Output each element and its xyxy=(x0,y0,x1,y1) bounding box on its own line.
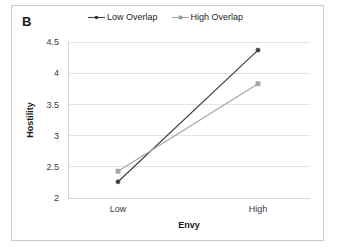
data-point xyxy=(116,169,120,173)
xtick-labels: LowHigh xyxy=(110,204,268,214)
ytick-label: 3 xyxy=(54,131,59,141)
data-series xyxy=(116,48,260,184)
ytick-label: 3.5 xyxy=(46,100,59,110)
series-high-overlap xyxy=(116,82,260,174)
data-point xyxy=(256,48,260,52)
line-chart: 22.533.544.5 LowHigh Hostility Envy xyxy=(0,0,338,252)
ytick-label: 2 xyxy=(54,193,59,203)
axis-lines xyxy=(68,42,310,198)
ytick-label: 2.5 xyxy=(46,162,59,172)
y-axis-title: Hostility xyxy=(25,102,35,138)
series-line xyxy=(118,50,258,182)
x-axis-title: Envy xyxy=(178,220,200,230)
figure-root: B Low Overlap High Overlap 22.533.544.5 … xyxy=(0,0,338,252)
series-line xyxy=(118,84,258,171)
data-point xyxy=(256,82,260,86)
xtick-label: High xyxy=(249,204,268,214)
series-low-overlap xyxy=(116,48,260,184)
gridlines xyxy=(68,42,310,198)
ytick-label: 4 xyxy=(54,68,59,78)
ytick-labels: 22.533.544.5 xyxy=(46,37,59,203)
ytick-label: 4.5 xyxy=(46,37,59,47)
data-point xyxy=(116,180,120,184)
xtick-label: Low xyxy=(110,204,127,214)
